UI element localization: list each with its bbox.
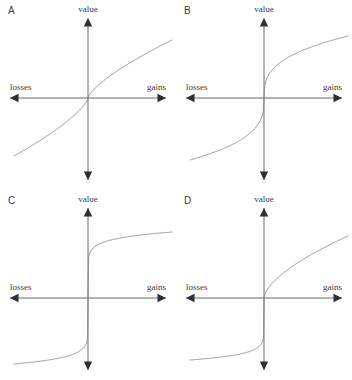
panel-b: B value losses gains [176,0,352,190]
figure-panel-grid: A value losses gains B value losses gain… [0,0,352,380]
plot-b [176,0,352,190]
panel-c: C value losses gains [0,190,176,380]
plot-a [0,0,176,190]
plot-d [176,190,352,380]
panel-d: D value losses gains [176,190,352,380]
plot-c [0,190,176,380]
panel-a: A value losses gains [0,0,176,190]
